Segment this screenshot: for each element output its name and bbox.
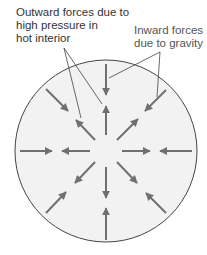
star-pressure-diagram <box>0 0 207 255</box>
